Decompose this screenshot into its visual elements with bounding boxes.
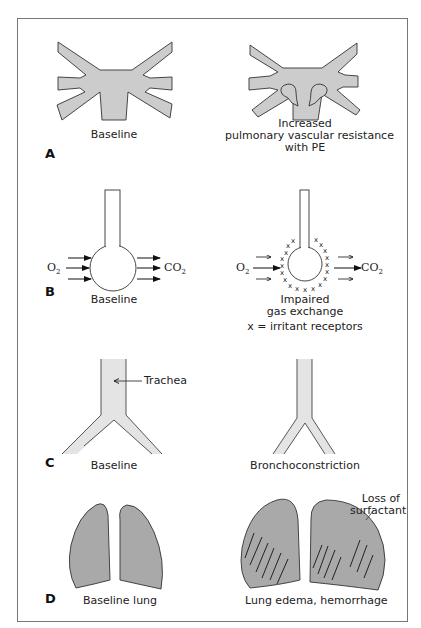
panel-letter-a: A	[45, 146, 55, 161]
svg-text:x: x	[325, 268, 329, 276]
panel-d-right-caption: Lung edema, hemorrhage	[245, 595, 375, 607]
surfactant-annotation: Loss of surfactant	[350, 493, 400, 517]
vessel-pe-shape	[249, 43, 360, 120]
co2-label-baseline: CO2	[164, 261, 186, 276]
panel-letter-c: C	[45, 455, 55, 470]
svg-text:x: x	[314, 236, 318, 244]
co2-label-impaired: CO2	[361, 261, 383, 276]
panel-letter-b: B	[45, 284, 55, 299]
o2-label-baseline: O2	[47, 261, 61, 276]
panel-a-left-caption: Baseline	[84, 129, 144, 141]
embolus-left	[281, 84, 298, 106]
panel-c-right-caption: Bronchoconstriction	[250, 460, 360, 472]
panel-b-right-caption: Impaired gas exchange x = irritant recep…	[245, 294, 365, 333]
panel-d-left-caption: Baseline lung	[70, 595, 170, 607]
svg-text:x: x	[318, 281, 322, 289]
alveolus-impaired: xxx xxx xxx xxx xxx xxx x	[253, 190, 361, 294]
svg-text:x: x	[288, 282, 292, 290]
svg-text:x: x	[295, 285, 299, 293]
panel-a-right-caption: Increased pulmonary vascular resistance …	[225, 118, 385, 154]
panel-c-left-caption: Baseline	[84, 460, 144, 472]
airway-constricted	[273, 359, 335, 454]
lungs-baseline	[69, 504, 162, 589]
svg-text:x: x	[284, 249, 288, 257]
svg-text:x: x	[323, 275, 327, 283]
trachea-label: Trachea	[144, 375, 187, 387]
panel-letter-d: D	[45, 591, 56, 606]
svg-text:x: x	[325, 261, 329, 269]
o2-label-impaired: O2	[236, 261, 250, 276]
panel-b-left-caption: Baseline	[84, 294, 144, 306]
svg-text:x: x	[291, 237, 295, 245]
alveolus-baseline	[66, 190, 160, 291]
svg-text:x: x	[325, 254, 329, 262]
vessel-baseline-shape	[57, 42, 172, 120]
svg-text:x: x	[311, 285, 315, 293]
svg-text:x: x	[283, 276, 287, 284]
svg-text:x: x	[319, 241, 323, 249]
svg-text:x: x	[323, 247, 327, 255]
